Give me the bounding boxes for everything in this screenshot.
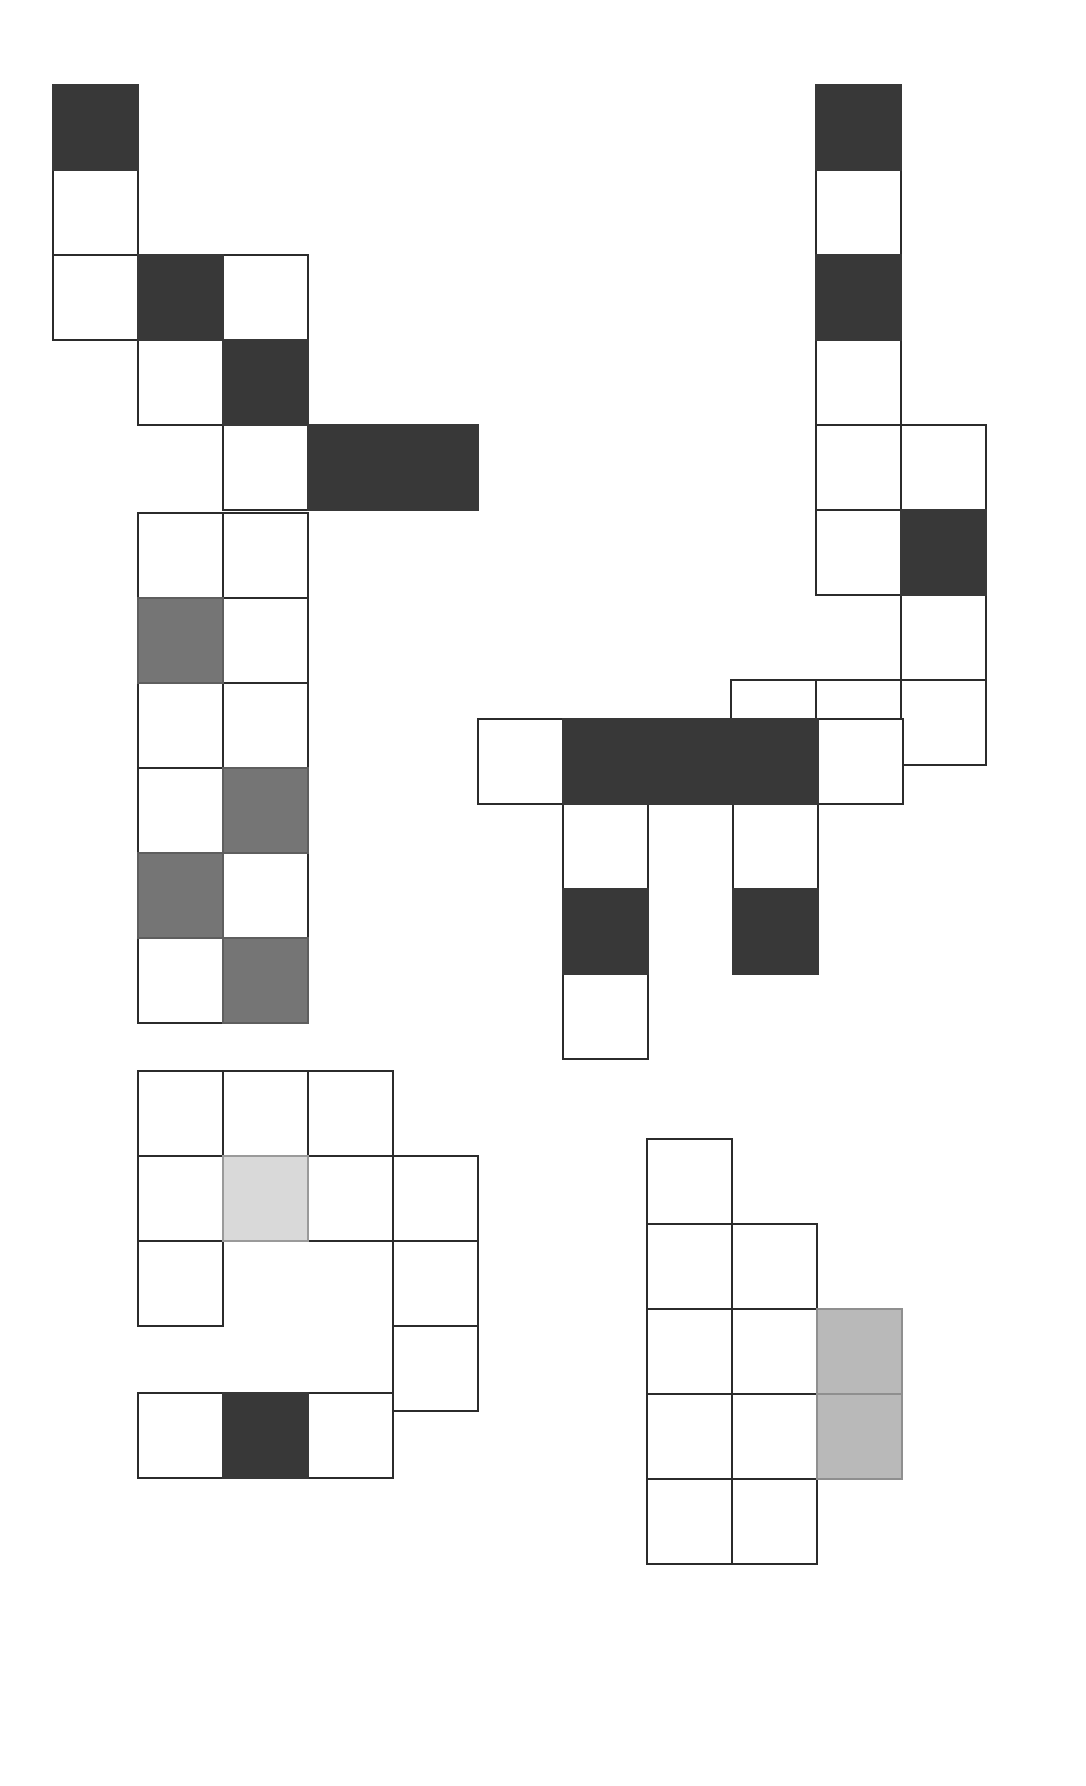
grid-cell <box>647 718 734 805</box>
grid-cell <box>392 424 479 511</box>
grid-cell <box>52 84 139 171</box>
grid-cell <box>52 169 139 256</box>
grid-cell <box>137 339 224 426</box>
grid-cell <box>392 1240 479 1327</box>
grid-cell <box>137 1392 224 1479</box>
grid-cell <box>732 888 819 975</box>
grid-cell <box>900 509 987 596</box>
grid-cell <box>222 1070 309 1157</box>
grid-cell <box>815 509 902 596</box>
grid-cell <box>137 254 224 341</box>
grid-cell <box>732 718 819 805</box>
grid-cell <box>222 512 309 599</box>
grid-cell <box>137 1155 224 1242</box>
grid-cell <box>392 1155 479 1242</box>
grid-cell <box>562 803 649 890</box>
grid-cell <box>900 679 987 766</box>
grid-cell <box>816 1393 903 1480</box>
grid-cell <box>137 682 224 769</box>
grid-cell <box>222 424 309 511</box>
grid-cell <box>646 1393 733 1480</box>
grid-cell <box>731 1308 818 1395</box>
grid-cell <box>307 1070 394 1157</box>
grid-cell <box>646 1138 733 1225</box>
grid-cell <box>815 169 902 256</box>
grid-cell <box>137 512 224 599</box>
grid-cell <box>900 424 987 511</box>
grid-cell <box>137 1070 224 1157</box>
grid-cell <box>392 1325 479 1412</box>
grid-cell <box>222 254 309 341</box>
grid-cell <box>646 1223 733 1310</box>
grid-cell <box>137 852 224 939</box>
grid-cell <box>477 718 564 805</box>
grid-cell <box>562 888 649 975</box>
grid-cell <box>222 339 309 426</box>
grid-cell <box>222 1155 309 1242</box>
grid-cell <box>222 682 309 769</box>
grid-cell <box>52 254 139 341</box>
grid-cell <box>731 1223 818 1310</box>
grid-cell <box>137 767 224 854</box>
grid-cell <box>900 594 987 681</box>
grid-cell <box>137 597 224 684</box>
grid-cell <box>562 718 649 805</box>
grid-cell <box>307 1392 394 1479</box>
grid-cell <box>815 254 902 341</box>
grid-cell <box>815 424 902 511</box>
grid-cell <box>137 1240 224 1327</box>
grid-cell <box>222 852 309 939</box>
grid-cell <box>562 973 649 1060</box>
grid-cell <box>817 718 904 805</box>
grid-cell <box>137 937 224 1024</box>
grid-cell <box>815 84 902 171</box>
grid-cell <box>815 339 902 426</box>
grid-cell <box>816 1308 903 1395</box>
grid-cell <box>307 1155 394 1242</box>
grid-cell <box>222 937 309 1024</box>
grid-cell <box>646 1308 733 1395</box>
grid-cell <box>731 1478 818 1565</box>
grid-cell <box>731 1393 818 1480</box>
grid-cell <box>307 424 394 511</box>
grid-cell <box>732 803 819 890</box>
grid-cell <box>222 1392 309 1479</box>
grid-cell <box>646 1478 733 1565</box>
grid-cell <box>222 767 309 854</box>
figure-canvas <box>0 0 1086 1786</box>
grid-cell <box>222 597 309 684</box>
